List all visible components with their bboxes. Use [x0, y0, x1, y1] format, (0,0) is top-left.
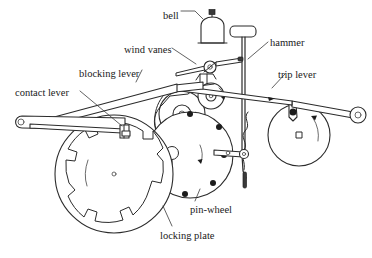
label-pin-wheel: pin-wheel	[190, 205, 232, 216]
diagram-canvas: bell wind vanes hammer blocking lever tr…	[0, 0, 372, 258]
leader-wind-vanes	[172, 48, 196, 64]
label-blocking-lever: blocking lever	[79, 69, 139, 80]
label-bell: bell	[163, 11, 179, 22]
label-trip-lever: trip lever	[278, 70, 316, 81]
label-wind-vanes: wind vanes	[124, 45, 172, 56]
mechanism-drawing	[0, 0, 372, 258]
label-contact-lever: contact lever	[15, 88, 69, 99]
leader-hammer	[248, 42, 268, 59]
leader-locking-plate	[163, 206, 172, 226]
bell-part	[198, 10, 227, 44]
leader-bell	[181, 11, 203, 19]
wind-vanes-part	[176, 57, 243, 76]
label-locking-plate: locking plate	[160, 231, 215, 242]
hammer-part	[230, 26, 256, 188]
label-hammer: hammer	[270, 38, 304, 49]
